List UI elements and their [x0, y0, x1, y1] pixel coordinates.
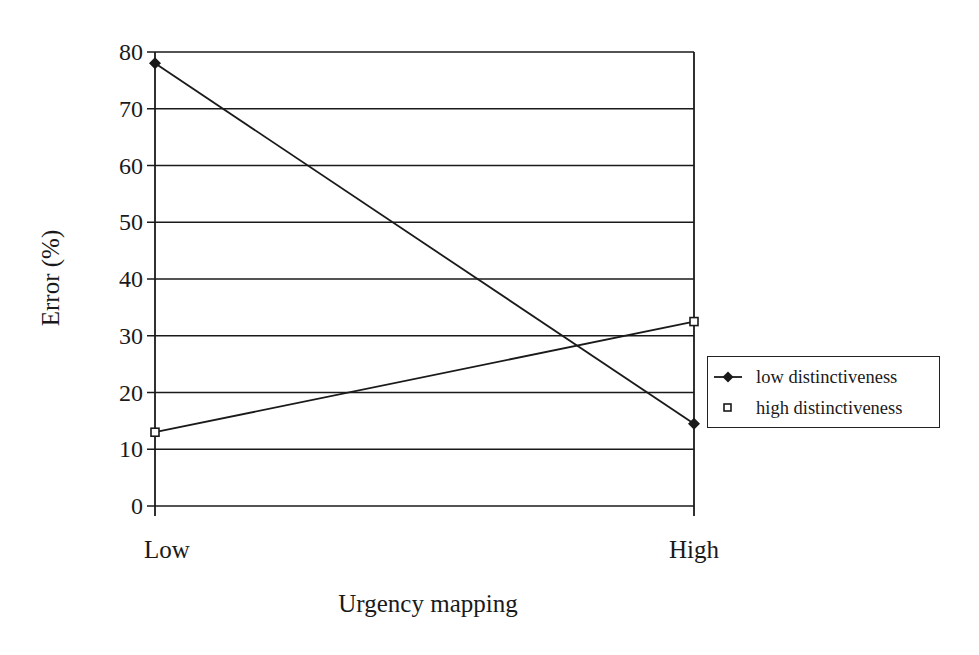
x-axis-title: Urgency mapping — [338, 590, 518, 617]
legend-label: low distinctiveness — [752, 367, 897, 388]
y-tick-label: 50 — [119, 209, 143, 235]
series-lines — [149, 57, 700, 436]
y-tick-label: 30 — [119, 323, 143, 349]
gridlines — [147, 52, 694, 506]
y-tick-label: 80 — [119, 39, 143, 65]
plot-frame — [155, 52, 694, 516]
square-marker-icon — [690, 318, 698, 326]
diamond-marker-icon — [688, 418, 700, 430]
y-tick-label: 20 — [119, 380, 143, 406]
diamond-marker-icon — [149, 57, 161, 69]
open-square-icon — [708, 394, 752, 422]
legend-item-high-distinctiveness: high distinctiveness — [708, 394, 902, 422]
legend-label: high distinctiveness — [752, 398, 902, 419]
series-line — [155, 63, 694, 423]
y-axis-ticks: 01020304050607080 — [119, 39, 143, 519]
y-axis-title: Error (%) — [37, 230, 65, 326]
y-tick-label: 10 — [119, 436, 143, 462]
y-tick-label: 0 — [131, 493, 143, 519]
y-tick-label: 40 — [119, 266, 143, 292]
y-tick-label: 60 — [119, 153, 143, 179]
filled-diamond-line-icon — [708, 363, 752, 391]
square-marker-icon — [151, 428, 159, 436]
x-tick-label: High — [669, 536, 720, 563]
x-axis-ticks: LowHigh — [144, 536, 719, 563]
series-line — [155, 322, 694, 433]
legend-item-low-distinctiveness: low distinctiveness — [708, 363, 897, 391]
y-tick-label: 70 — [119, 96, 143, 122]
line-chart: 01020304050607080 LowHigh Urgency mappin… — [0, 0, 979, 655]
legend: low distinctiveness high distinctiveness — [707, 356, 940, 428]
x-tick-label: Low — [144, 536, 190, 563]
